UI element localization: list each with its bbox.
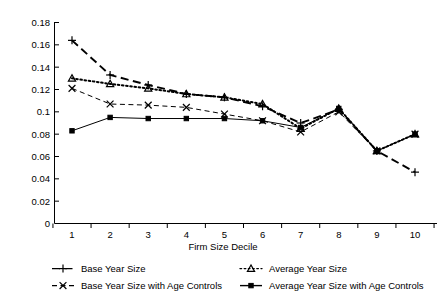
data-point-marker [260,119,264,123]
data-point-marker [222,116,226,120]
x-tick-label: 6 [260,229,265,240]
y-tick-label: 0 [45,218,50,229]
series-4 [70,106,417,153]
data-point-marker [70,129,74,133]
x-tick-label: 1 [69,229,74,240]
legend-item-2[interactable]: Average Year Size [240,263,347,274]
legend-item-4[interactable]: Average Year Size with Age Controls [240,280,424,291]
series-line [72,108,415,150]
legend-label: Base Year Size with Age Controls [81,280,222,291]
y-tick-label: 0.1 [37,106,50,117]
legend-label: Average Year Size with Age Controls [269,280,424,291]
x-tick-label: 10 [410,229,421,240]
chart-legend: Base Year SizeBase Year Size with Age Co… [52,263,424,291]
x-axis-title: Firm Size Decile [188,241,257,252]
x-tick-label: 3 [146,229,151,240]
y-tick-label: 0.14 [32,62,51,73]
series-2 [68,75,418,154]
y-tick-label: 0.04 [32,173,51,184]
y-tick-label: 0.18 [32,17,51,28]
data-point-marker [108,115,112,119]
y-tick-label: 0.02 [32,196,51,207]
chart-container: 00.020.040.060.080.10.120.140.160.18 123… [0,0,446,302]
data-point-marker [249,283,253,287]
series-1 [68,36,419,176]
x-tick-label: 4 [184,229,189,240]
y-tick-label: 0.16 [32,39,51,50]
y-tick-label: 0.12 [32,84,51,95]
y-tick-label: 0.08 [32,129,51,140]
x-tick-label: 2 [107,229,112,240]
data-point-marker [298,125,302,129]
data-point-marker [375,149,379,153]
data-point-marker [184,116,188,120]
x-tick-label: 7 [298,229,303,240]
legend-label: Base Year Size [81,263,145,274]
y-axis-tick-marks [55,23,60,224]
data-point-marker [337,106,341,110]
series-line [72,40,415,172]
x-tick-label: 9 [374,229,379,240]
legend-label: Average Year Size [269,263,347,274]
legend-item-3[interactable]: Base Year Size with Age Controls [52,280,222,291]
series-line [72,78,415,151]
legend-item-1[interactable]: Base Year Size [52,263,145,274]
line-chart: 00.020.040.060.080.10.120.140.160.18 123… [0,0,446,302]
x-tick-label: 5 [222,229,227,240]
data-point-marker [413,132,417,136]
series-layer [68,36,419,176]
x-axis-tick-marks [53,224,434,229]
x-tick-label: 8 [336,229,341,240]
y-axis-tick-labels: 00.020.040.060.080.10.120.140.160.18 [32,17,51,229]
y-tick-label: 0.06 [32,151,51,162]
x-axis-tick-labels: 12345678910 [69,229,420,240]
data-point-marker [146,116,150,120]
